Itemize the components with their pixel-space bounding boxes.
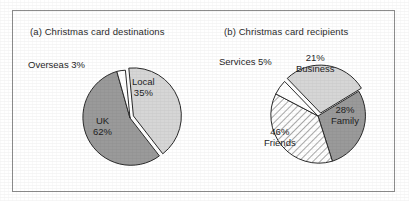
pie-b-label-business-pct: 21% [296, 52, 335, 63]
figure-canvas: (a) Christmas card destinations (b) Chri… [0, 0, 409, 201]
pie-a-label-uk-name: UK [93, 115, 112, 126]
pie-a-label-local-pct: 35% [132, 87, 155, 98]
pie-a-label-uk-pct: 62% [93, 126, 112, 137]
pie-b-label-friends-pct: 46% [264, 126, 296, 137]
pie-b-label-family-pct: 28% [331, 104, 359, 115]
chart-a-title: (a) Christmas card destinations [30, 26, 165, 37]
pie-a-label-uk: UK 62% [93, 115, 112, 137]
pie-b-label-business-name: Business [296, 63, 335, 74]
pie-a-label-local-name: Local [132, 76, 155, 87]
pie-b-label-friends: 46% Friends [264, 126, 296, 148]
pie-a-label-overseas: Overseas 3% [28, 59, 85, 70]
pie-a-label-local: Local 35% [132, 76, 155, 98]
pie-b-label-family: 28% Family [331, 104, 359, 126]
pie-b-label-services: Services 5% [219, 56, 272, 67]
chart-b-title: (b) Christmas card recipients [224, 26, 348, 37]
pie-b-label-friends-name: Friends [264, 137, 296, 148]
pie-b-label-business: 21% Business [296, 52, 335, 74]
pie-b-label-family-name: Family [331, 115, 359, 126]
figure-border [12, 10, 395, 192]
